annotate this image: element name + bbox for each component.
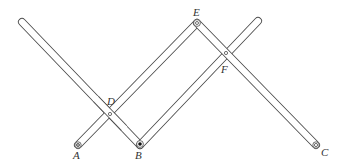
pin-C-icon [313, 142, 319, 148]
pin-B-icon [137, 141, 144, 148]
pin-E-icon [194, 20, 201, 27]
label-E: E [192, 6, 200, 18]
pin-A-icon [75, 142, 81, 148]
label-F: F [220, 63, 228, 75]
label-A: A [72, 149, 80, 161]
pantograph-diagram: A B C D E F [0, 0, 345, 168]
bar-B-to-top-right [140, 21, 258, 145]
pin-F-icon [224, 51, 227, 54]
label-C: C [321, 146, 329, 158]
label-B: B [135, 149, 142, 161]
bar-A-to-E [78, 23, 197, 145]
label-D: D [106, 95, 115, 107]
bar-E-to-C [197, 23, 316, 145]
pin-D-icon [108, 112, 111, 115]
